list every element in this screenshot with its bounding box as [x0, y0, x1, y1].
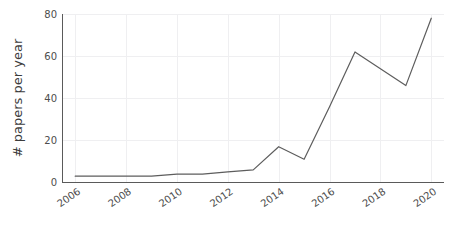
- y-axis-label: # papers per year: [10, 38, 25, 157]
- line-chart: 020406080 200620082010201220142016201820…: [0, 0, 468, 230]
- y-tick-label: 60: [44, 51, 57, 62]
- y-tick-label: 20: [44, 135, 57, 146]
- y-tick-label: 80: [44, 9, 57, 20]
- y-tick-label: 0: [51, 177, 57, 188]
- chart-figure: 020406080 200620082010201220142016201820…: [0, 0, 468, 230]
- y-tick-label: 40: [44, 93, 57, 104]
